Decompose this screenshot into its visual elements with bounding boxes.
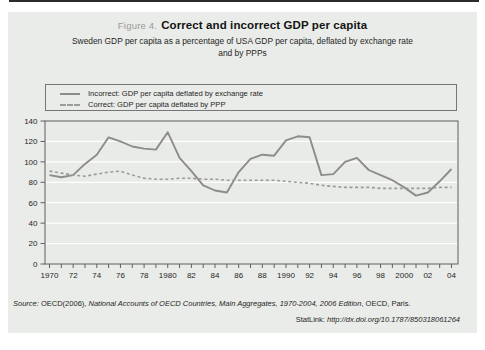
svg-text:2000: 2000 [395,271,413,280]
statlink-row: StatLink: http://dx.doi.org/10.1787/8503… [296,315,460,324]
statlink-label: StatLink: [296,315,325,324]
svg-text:60: 60 [29,199,38,208]
svg-text:80: 80 [29,178,38,187]
svg-text:86: 86 [234,271,243,280]
svg-text:76: 76 [116,271,125,280]
svg-text:74: 74 [92,271,101,280]
svg-text:20: 20 [29,239,38,248]
svg-text:82: 82 [187,271,196,280]
line-chart-plot: 0204060801001201401970727476781980828486… [0,0,485,350]
svg-text:1990: 1990 [277,271,295,280]
svg-text:72: 72 [69,271,78,280]
svg-text:92: 92 [305,271,314,280]
svg-text:0: 0 [33,260,38,269]
svg-text:1970: 1970 [41,271,59,280]
statlink-url[interactable]: http://dx.doi.org/10.1787/850318061264 [327,315,460,324]
svg-text:88: 88 [258,271,267,280]
svg-text:140: 140 [24,117,38,126]
svg-text:98: 98 [376,271,385,280]
svg-text:84: 84 [211,271,220,280]
svg-text:02: 02 [423,271,432,280]
svg-text:120: 120 [24,137,38,146]
svg-text:94: 94 [329,271,338,280]
svg-text:1980: 1980 [159,271,177,280]
source-label: Source: [13,299,39,308]
svg-text:04: 04 [447,271,456,280]
source-publication-title: National Accounts of OECD Countries, Mai… [88,299,361,308]
svg-text:78: 78 [140,271,149,280]
source-note: Source: OECD(2006), National Accounts of… [13,299,473,308]
source-suffix: , OECD, Paris. [361,299,410,308]
svg-text:96: 96 [352,271,361,280]
source-publisher: OECD(2006), [41,299,86,308]
svg-text:100: 100 [24,158,38,167]
svg-text:40: 40 [29,219,38,228]
